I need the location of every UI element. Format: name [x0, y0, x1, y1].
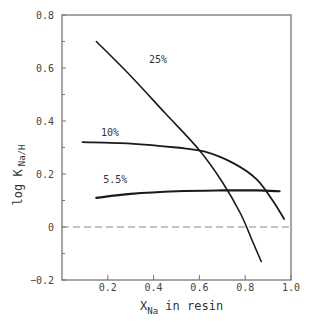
- y-axis-title-main: log K: [11, 169, 25, 206]
- y-tick-label: −0.2: [30, 275, 54, 286]
- y-axis-title-sub: Na/H: [17, 145, 27, 167]
- y-tick-label: 0.2: [36, 169, 54, 180]
- curve-labels: 25%10%5.5%: [101, 54, 167, 186]
- chart-figure: −0.200.20.40.60.8 0.20.40.60.81.0 25%10%…: [0, 0, 318, 332]
- data-curves: [83, 42, 285, 262]
- x-tick-label: 0.8: [236, 282, 254, 293]
- curve-label-25pct: 25%: [149, 54, 167, 65]
- y-tick-label: 0.6: [36, 63, 54, 74]
- curve-label-5-5pct: 5.5%: [103, 174, 127, 185]
- y-tick-label: 0.4: [36, 116, 54, 127]
- x-axis-title-rest: in resin: [158, 299, 223, 313]
- curve-label-10pct: 10%: [101, 127, 119, 138]
- curve-5-5pct: [96, 190, 279, 198]
- x-tick-label: 0.4: [145, 282, 163, 293]
- x-tick-label: 0.6: [190, 282, 208, 293]
- x-axis-ticks: 0.20.40.60.81.0: [99, 275, 300, 293]
- x-axis-title: XNa in resin: [140, 299, 223, 316]
- x-axis-title-sub: Na: [147, 306, 158, 316]
- y-axis-title: log KNa/H: [11, 145, 27, 206]
- curve-25pct: [96, 42, 261, 262]
- y-tick-label: 0.8: [36, 10, 54, 21]
- y-axis-ticks: −0.200.20.40.60.8: [30, 10, 66, 286]
- y-tick-label: 0: [48, 222, 54, 233]
- x-tick-label: 1.0: [282, 282, 300, 293]
- x-tick-label: 0.2: [99, 282, 117, 293]
